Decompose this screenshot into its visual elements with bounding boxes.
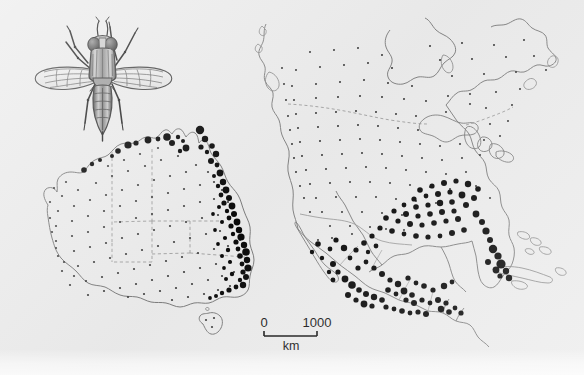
scale-bar-unit-label: km — [283, 339, 300, 353]
scale-bar-min-label: 0 — [260, 315, 267, 330]
figure-canvas: 0 1000 km — [0, 0, 584, 375]
scale-bar-max-label: 1000 — [303, 315, 332, 330]
figure-root: 0 1000 km — [0, 0, 584, 375]
